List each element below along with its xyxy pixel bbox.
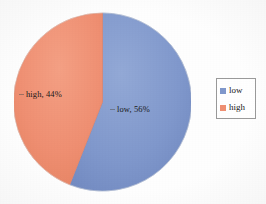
legend-label-low: low xyxy=(229,86,243,95)
pie-svg xyxy=(14,11,191,193)
chart-legend: low high xyxy=(216,78,256,119)
pie-label-low: low, 56% xyxy=(110,105,150,114)
legend-swatch-low xyxy=(220,88,226,94)
pie-plot-area xyxy=(14,11,191,193)
legend-item-high[interactable]: high xyxy=(220,99,255,116)
legend-swatch-high xyxy=(220,105,226,111)
pie-label-high-text: high, 44% xyxy=(26,89,62,99)
legend-item-low[interactable]: low xyxy=(220,82,255,99)
pie-label-high: high, 44% xyxy=(19,90,62,99)
pie-label-low-text: low, 56% xyxy=(117,104,150,114)
label-leader-line-low xyxy=(110,109,115,110)
label-leader-line-high xyxy=(19,94,24,95)
legend-label-high: high xyxy=(229,103,245,112)
pie-chart-figure: high, 44% low, 56% low high xyxy=(0,0,266,204)
